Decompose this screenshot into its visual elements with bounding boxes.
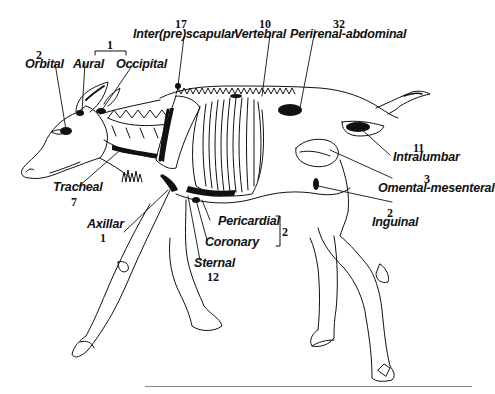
- bottom-rule: [145, 386, 472, 387]
- axillar-count: 1: [100, 231, 106, 246]
- intralumbar-node: [346, 122, 370, 132]
- pericardial-coronary-group-count: 2: [282, 225, 288, 240]
- perirenal-abdominal-node: [278, 104, 302, 116]
- intralumbar-label: Intralumbar: [393, 150, 460, 164]
- cervical-vertebrae: [108, 110, 168, 138]
- coronary-label: Coronary: [205, 235, 259, 249]
- tracheal-node: [112, 145, 158, 158]
- orbital-label: Orbital: [25, 57, 64, 71]
- interprescapular-label: Inter(pre)scapular: [133, 27, 236, 41]
- pelvis: [296, 139, 339, 166]
- aural-node: [76, 110, 84, 116]
- axillar-node: [160, 174, 178, 192]
- inguinal-node: [313, 178, 319, 190]
- occipital-label: Occipital: [116, 57, 167, 71]
- front-leg-near: [72, 190, 170, 357]
- axillar-label: Axillar: [87, 217, 124, 231]
- sternal-pericardial-node: [186, 186, 236, 197]
- hind-leg-far: [310, 236, 337, 347]
- vertebral-label: Vertebral: [234, 27, 286, 41]
- vertebral-processes: [176, 88, 295, 94]
- sternal-label: Sternal: [194, 256, 235, 270]
- chest-hair: [122, 170, 142, 182]
- tracheal-label: Tracheal: [53, 180, 103, 194]
- vertebral-node: [230, 94, 242, 98]
- occipital-node: [96, 108, 106, 114]
- pericardial-label: Pericardial: [218, 214, 280, 228]
- aural-label: Aural: [73, 57, 104, 71]
- inguinal-label: Inguinal: [372, 215, 418, 229]
- sternal-count: 12: [207, 270, 219, 285]
- omental-mesenteral-label: Omental-mesenteral: [378, 181, 495, 195]
- rib-cage: [193, 98, 264, 196]
- tracheal-count: 7: [71, 195, 77, 210]
- perirenal-abdominal-label: Perirenal-abdominal: [290, 27, 406, 41]
- aural-occipital-group-count: 1: [107, 38, 113, 53]
